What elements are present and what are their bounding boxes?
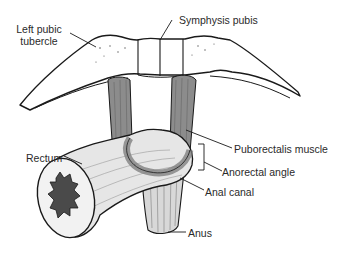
label-left-pubic-tubercle: Left pubic tubercle <box>4 23 74 47</box>
label-symphysis-pubis: Symphysis pubis <box>179 14 258 26</box>
label-anus: Anus <box>188 227 212 239</box>
label-left-pubic-tubercle-line2: tubercle <box>20 35 57 47</box>
anorectal-anatomy-diagram: Left pubic tubercle Symphysis pubis Rect… <box>0 0 347 253</box>
label-puborectalis-muscle: Puborectalis muscle <box>234 143 328 155</box>
label-rectum: Rectum <box>26 152 62 164</box>
label-anorectal-angle: Anorectal angle <box>222 166 295 178</box>
label-anal-canal: Anal canal <box>205 186 254 198</box>
label-left-pubic-tubercle-line1: Left pubic <box>16 23 62 35</box>
